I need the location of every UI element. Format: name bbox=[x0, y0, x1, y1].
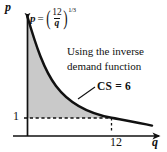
x-axis-tick-label-12: 12 bbox=[110, 136, 122, 148]
x-axis-label: q bbox=[152, 136, 158, 148]
equation-numerator: 12 bbox=[51, 8, 63, 18]
equation-fraction: 12 q bbox=[51, 8, 63, 29]
equation-denominator: q bbox=[54, 18, 61, 29]
annotation-line-1: Using the inverse bbox=[67, 44, 144, 59]
equation-equals-sign: = bbox=[38, 13, 44, 24]
consumer-surplus-figure: p q 1 12 p = ( 12 q ) 1/3 Using the inve… bbox=[0, 0, 167, 152]
equation-exponent: 1/3 bbox=[68, 7, 76, 14]
annotation-text: Using the inverse demand function bbox=[67, 44, 144, 73]
equation-open-paren: ( bbox=[46, 10, 50, 26]
annotation-line-2: demand function bbox=[67, 59, 144, 74]
demand-equation: p = ( 12 q ) 1/3 bbox=[30, 8, 76, 29]
y-axis-label: p bbox=[5, 1, 11, 13]
equation-close-paren: ) bbox=[64, 10, 68, 26]
consumer-surplus-callout-label: CS = 6 bbox=[97, 81, 131, 93]
equation-lhs: p bbox=[30, 13, 36, 24]
y-axis-tick-label-1: 1 bbox=[13, 110, 19, 122]
plot-canvas bbox=[0, 0, 167, 152]
cs-leader-line bbox=[78, 87, 95, 99]
